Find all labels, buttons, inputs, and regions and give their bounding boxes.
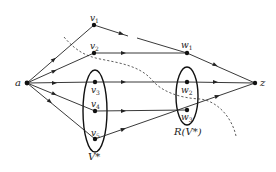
label-z: z xyxy=(259,77,266,88)
arrow-v5-z-1 xyxy=(120,126,126,131)
edge-a-v2 xyxy=(27,53,94,83)
edge-v4-w3 xyxy=(95,110,187,111)
node-z xyxy=(253,81,257,85)
flow-network-diagram: a v1 v2 v3 v4 v5 w1 w2 w3 z V* R(V*) xyxy=(0,0,276,172)
arrow-v5-z-2 xyxy=(214,93,220,98)
arrow-v1-w1 xyxy=(118,31,124,36)
edge-v1-w1-part2 xyxy=(137,38,187,53)
label-V-star: V* xyxy=(88,151,100,162)
arrow-a-v3 xyxy=(52,81,57,85)
label-w1: w1 xyxy=(181,40,193,51)
node-a xyxy=(25,81,30,86)
label-w3: w3 xyxy=(181,112,193,123)
node-w1 xyxy=(185,51,189,55)
dashed-cut-curve xyxy=(64,37,236,136)
label-v3: v3 xyxy=(91,85,100,96)
label-w2: w2 xyxy=(181,85,193,96)
arrow-v3-w2 xyxy=(121,80,126,84)
arrow-v4-w3 xyxy=(121,109,126,113)
arrow-a-v4 xyxy=(51,91,57,97)
label-R-V-star: R(V*) xyxy=(173,126,202,137)
arrow-w1-z xyxy=(212,62,218,68)
label-v4: v4 xyxy=(91,99,100,110)
labels: a v1 v2 v3 v4 v5 w1 w2 w3 z V* R(V*) xyxy=(15,13,266,162)
node-v3 xyxy=(93,80,97,84)
label-v1: v1 xyxy=(90,13,99,24)
edge-w1-z xyxy=(187,53,255,83)
edge-a-v3 xyxy=(27,82,95,83)
node-w2 xyxy=(185,80,189,84)
arrow-a-v2 xyxy=(51,68,57,74)
label-a: a xyxy=(15,77,21,88)
edges xyxy=(27,25,255,139)
label-v2: v2 xyxy=(90,41,99,52)
arrow-w2-z xyxy=(213,80,218,84)
arrow-v2-w1 xyxy=(121,51,126,55)
label-v5: v5 xyxy=(91,128,100,139)
